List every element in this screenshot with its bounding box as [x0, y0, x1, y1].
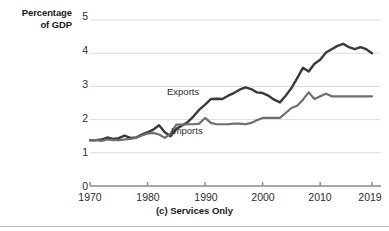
footer-divider — [0, 226, 389, 227]
y-tick-label-4: 4 — [72, 45, 88, 56]
series-line-exports — [90, 44, 372, 140]
y-tick-label-3: 3 — [72, 79, 88, 90]
series-label-exports: Exports — [167, 87, 199, 97]
x-tick-label-2010: 2010 — [298, 191, 342, 203]
services-only-line-chart: Percentage of GDP 0 1 2 3 4 5 1970 1980 … — [0, 0, 389, 231]
x-tick-label-2019: 2019 — [348, 191, 389, 203]
x-tick-label-2000: 2000 — [241, 191, 285, 203]
y-tick-label-1: 1 — [72, 147, 88, 158]
figure-caption: (c) Services Only — [0, 205, 389, 216]
y-tick-label-2: 2 — [72, 113, 88, 124]
x-tick-label-1990: 1990 — [184, 191, 228, 203]
series-line-imports — [90, 92, 372, 140]
y-tick-label-5: 5 — [72, 11, 88, 22]
series-label-imports: Imports — [171, 126, 203, 136]
x-tick-label-1970: 1970 — [68, 191, 112, 203]
x-tick-label-1980: 1980 — [126, 191, 170, 203]
